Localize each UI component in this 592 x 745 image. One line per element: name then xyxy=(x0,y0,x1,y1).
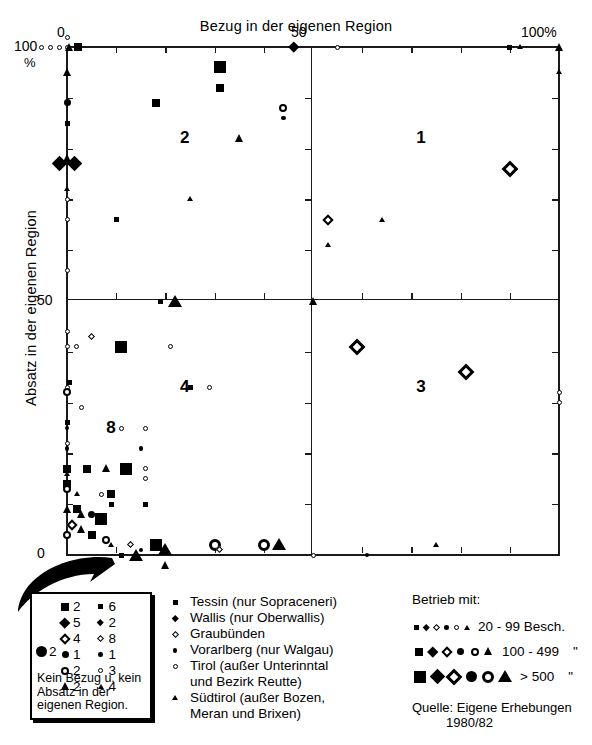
data-point xyxy=(39,45,44,50)
data-point xyxy=(74,344,79,349)
data-point xyxy=(127,541,134,548)
data-point xyxy=(129,549,143,561)
data-point xyxy=(48,45,53,50)
legend-region-label: Tessin (nur Sopraceneri) xyxy=(190,594,383,610)
tick-top xyxy=(461,47,462,53)
marker-diamond-filled xyxy=(97,619,103,625)
callout-glyph xyxy=(94,600,109,614)
legend-region-label: Wallis (nur Oberwallis) xyxy=(190,610,383,626)
marker-circle-filled xyxy=(62,651,69,658)
data-point xyxy=(65,426,70,431)
legend-region-item-0[interactable]: Tessin (nur Sopraceneri) xyxy=(168,594,383,610)
callout-count: 2 xyxy=(73,599,81,614)
marker-diamond-open xyxy=(171,631,178,638)
y-axis-unit: % xyxy=(24,55,36,70)
legend-region-label: Graubünden xyxy=(190,626,383,642)
legend-size-glyph xyxy=(432,620,441,634)
legend-size-row-2[interactable]: > 500" xyxy=(412,666,592,687)
callout-item: 1 xyxy=(94,647,117,662)
legend-size-glyph xyxy=(442,620,451,634)
tick-top xyxy=(165,47,166,53)
legend-region-glyph xyxy=(168,642,190,657)
marker-triangle xyxy=(172,695,178,700)
source-line-2: 1980/82 xyxy=(412,715,592,730)
tick-midline-h xyxy=(215,293,216,299)
data-point xyxy=(214,61,226,73)
tick-left xyxy=(67,250,73,251)
legend-size-row-0[interactable]: 20 - 99 Besch. xyxy=(412,616,592,637)
callout-item: 2 xyxy=(94,615,117,630)
callout-glyph xyxy=(58,600,73,614)
marker-diamond-filled xyxy=(172,615,178,621)
callout-box: 254122628134 2 Kein Bezug u. kein Absatz… xyxy=(30,592,152,720)
legend-size-glyph xyxy=(412,644,425,660)
data-point xyxy=(258,539,270,551)
marker-circle-open xyxy=(454,625,459,630)
data-point xyxy=(309,297,317,305)
data-point xyxy=(88,333,95,340)
tick-midline-v xyxy=(305,199,311,200)
tick-left xyxy=(67,403,73,404)
marker-diamond-open xyxy=(59,633,70,644)
tick-left xyxy=(67,149,73,150)
data-point xyxy=(120,463,132,475)
axis-right xyxy=(558,46,560,556)
data-point xyxy=(158,299,163,304)
callout-big-marker: 2 xyxy=(34,644,57,659)
callout-text: Kein Bezug u. kein Absatz in der eigenen… xyxy=(37,672,147,713)
tick-midline-h xyxy=(411,293,412,299)
data-point xyxy=(99,492,104,497)
tick-midline-h xyxy=(510,293,511,299)
x-axis-tick-100: 100% xyxy=(521,24,557,40)
callout-glyph xyxy=(58,632,73,646)
callout-big-count: 2 xyxy=(49,644,57,659)
data-point xyxy=(64,471,70,476)
legend-region-item-3[interactable]: Vorarlberg (nur Walgau) xyxy=(168,642,383,658)
legend-size-row-1[interactable]: 100 - 499" xyxy=(412,641,592,662)
callout-glyph xyxy=(58,616,73,630)
data-point xyxy=(119,426,124,431)
callout-glyph xyxy=(94,616,109,630)
legend-region-item-1[interactable]: Wallis (nur Oberwallis) xyxy=(168,610,383,626)
legend-size-glyph xyxy=(482,644,495,660)
tick-right xyxy=(552,504,558,505)
y-axis-tick-50: 50 xyxy=(37,292,53,308)
legend-region-sublabel: und Bezirk Reutte) xyxy=(168,674,383,690)
data-point xyxy=(95,513,107,525)
marker-diamond-open xyxy=(441,646,452,657)
tick-right xyxy=(552,98,558,99)
tick-top xyxy=(116,47,117,53)
tick-midline-h xyxy=(165,293,166,299)
legend-region-item-5[interactable]: Südtirol (außer Bozen, xyxy=(168,690,383,706)
callout-item: 5 xyxy=(58,615,81,630)
legend-size-label: 100 - 499 xyxy=(502,644,559,659)
data-point xyxy=(63,388,71,396)
data-point xyxy=(143,502,148,507)
data-point xyxy=(109,502,114,507)
tick-right xyxy=(552,352,558,353)
data-point xyxy=(64,99,71,106)
marker-triangle xyxy=(498,670,512,682)
callout-count: 1 xyxy=(109,647,117,662)
marker-circle-filled xyxy=(466,671,477,682)
data-point xyxy=(65,329,70,334)
legend-region-glyph xyxy=(168,610,190,625)
data-point xyxy=(77,510,85,518)
data-point xyxy=(216,84,224,92)
legend-size-glyph xyxy=(452,620,461,634)
legend-region-glyph xyxy=(168,626,190,641)
tick-left xyxy=(67,352,73,353)
data-point xyxy=(83,465,91,473)
marker-triangle xyxy=(484,647,492,655)
marker-circle-open xyxy=(173,664,178,669)
marker-diamond-filled xyxy=(423,624,429,630)
legend-region-item-2[interactable]: Graubünden xyxy=(168,626,383,642)
data-point xyxy=(67,380,72,385)
legend-region-item-4[interactable]: Tirol (außer Unterinntal xyxy=(168,658,383,674)
callout-count: 2 xyxy=(109,615,117,630)
legend-size-glyph xyxy=(440,644,453,660)
data-point xyxy=(288,42,299,53)
tick-bottom xyxy=(362,547,363,553)
legend-size-glyph xyxy=(446,669,462,685)
data-point xyxy=(501,160,518,177)
